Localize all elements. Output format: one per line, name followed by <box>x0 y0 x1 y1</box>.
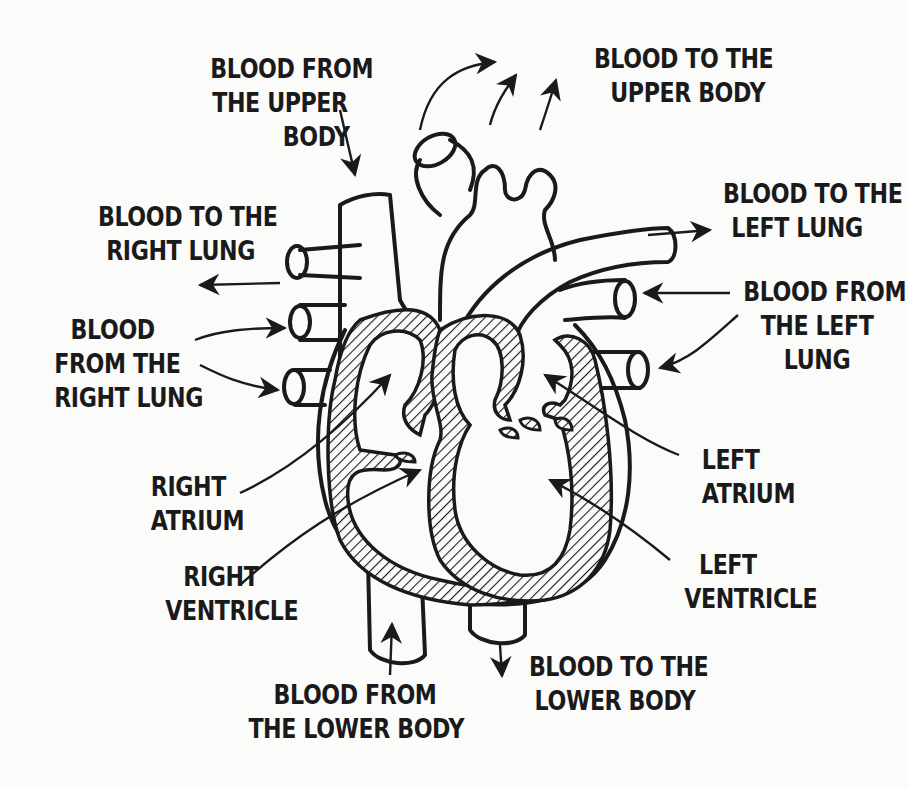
mitral-valve <box>520 418 540 430</box>
label-blood-from-left-lung: BLOOD FROM THE LEFT LUNG <box>743 275 891 377</box>
label-right-atrium: RIGHT ATRIUM <box>151 470 249 538</box>
label-blood-to-right-lung: BLOOD TO THE RIGHT LUNG <box>98 200 262 268</box>
label-blood-from-upper-body: BLOOD FROM THE UPPER BODY <box>210 52 349 154</box>
label-blood-from-right-lung: BLOOD FROM THE RIGHT LUNG <box>54 313 202 415</box>
label-left-atrium: LEFT ATRIUM <box>702 443 809 511</box>
label-left-ventricle: LEFT VENTRICLE <box>684 548 832 616</box>
aortic-arch <box>440 166 555 320</box>
label-right-ventricle: RIGHT VENTRICLE <box>165 560 304 628</box>
label-blood-to-upper-body: BLOOD TO THE UPPER BODY <box>594 42 766 110</box>
heart-diagram: BLOOD FROM THE UPPER BODY BLOOD TO THE U… <box>0 0 908 788</box>
label-blood-to-left-lung: BLOOD TO THE LEFT LUNG <box>723 177 887 245</box>
label-blood-from-lower-body: BLOOD FROM THE LOWER BODY <box>248 678 461 746</box>
label-blood-to-lower-body: BLOOD TO THE LOWER BODY <box>529 650 701 718</box>
left-heart-wall-septum <box>429 316 612 601</box>
